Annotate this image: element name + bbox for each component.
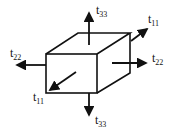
cube-top-face	[46, 33, 130, 54]
label-top-right: t11	[148, 12, 159, 28]
label-left: t22	[10, 46, 21, 62]
stress-cube-diagram: t33 t11 t22 t22 t11 t33	[0, 0, 172, 137]
arrow-top-right	[131, 29, 147, 41]
label-right: t22	[152, 51, 163, 67]
label-top: t33	[96, 3, 107, 19]
label-bottom: t33	[95, 113, 106, 129]
arrow-front	[50, 72, 76, 90]
label-front: t11	[33, 90, 44, 106]
